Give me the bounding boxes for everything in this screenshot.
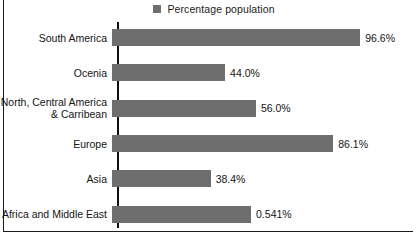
chart-legend: Percentage population	[0, 3, 420, 15]
bar	[112, 29, 360, 46]
bar-row: South America96.6%	[0, 20, 420, 55]
bar-value-label: 0.541%	[256, 208, 292, 220]
category-label: Africa and Middle East	[0, 208, 112, 220]
category-label: Europe	[0, 138, 112, 150]
bar-track: 86.1%	[112, 126, 420, 161]
plot-area: South America96.6%Ocenia44.0%North, Cent…	[0, 20, 420, 232]
category-label: North, Central America & Carribean	[0, 96, 112, 120]
bar-value-label: 38.4%	[216, 173, 246, 185]
bar-value-label: 96.6%	[365, 32, 395, 44]
category-label: Ocenia	[0, 67, 112, 79]
bar-value-label: 86.1%	[338, 138, 368, 150]
bar	[112, 100, 256, 117]
bar-rows: South America96.6%Ocenia44.0%North, Cent…	[0, 20, 420, 232]
bar-row: Europe86.1%	[0, 126, 420, 161]
bar-row: Asia38.4%	[0, 161, 420, 196]
bar-row: Africa and Middle East0.541%	[0, 197, 420, 232]
bar	[112, 135, 333, 152]
bar-row: North, Central America & Carribean56.0%	[0, 91, 420, 126]
bar-chart: Percentage population South America96.6%…	[0, 0, 420, 236]
bar	[112, 170, 211, 187]
bar-track: 56.0%	[112, 91, 420, 126]
bar	[112, 64, 225, 81]
bar	[112, 206, 251, 223]
bar-track: 0.541%	[112, 197, 420, 232]
bar-track: 44.0%	[112, 55, 420, 90]
legend-swatch-icon	[153, 5, 161, 13]
legend-label: Percentage population	[167, 3, 274, 15]
bar-value-label: 44.0%	[230, 67, 260, 79]
bar-track: 38.4%	[112, 161, 420, 196]
bar-track: 96.6%	[112, 20, 420, 55]
category-label: Asia	[0, 173, 112, 185]
bar-value-label: 56.0%	[261, 102, 291, 114]
bar-row: Ocenia44.0%	[0, 55, 420, 90]
category-label: South America	[0, 32, 112, 44]
